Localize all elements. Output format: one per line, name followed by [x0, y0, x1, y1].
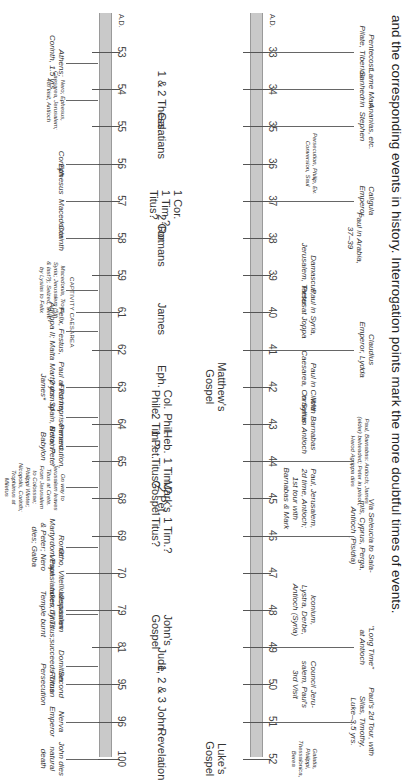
book-label: James [156, 303, 168, 335]
event-label: Corinth [57, 225, 66, 251]
year-label: 59 [116, 270, 127, 281]
connector-line [76, 312, 98, 313]
year-label: 81 [116, 642, 127, 653]
connector-line [66, 331, 98, 332]
year-label: 50 [267, 679, 278, 690]
event-label: With Barnabas in Syrian Antioch [300, 394, 318, 454]
header-caption: and the corresponding events in history.… [389, 15, 404, 765]
year-label: 56 [116, 158, 127, 169]
event-label: Persecution, Philip, Ev. Conversion, Sau… [304, 133, 318, 194]
year-label: 39 [267, 270, 278, 281]
year-label: 57 [116, 195, 127, 206]
year-label: 65 [116, 456, 127, 467]
year-label: 43 [267, 418, 278, 429]
book-label: Heb. 1 Pet. [150, 430, 174, 459]
event-label: Nero; Ephesus, Caesarea, Jerusalem; 4th … [45, 71, 66, 130]
event-label: Second Roman Persecution [39, 663, 66, 705]
connector-line [66, 63, 98, 64]
connector-line [66, 547, 98, 548]
year-label: 53 [116, 46, 127, 57]
event-label: Felix, Festus, Agrippa II; Malta [48, 302, 66, 360]
book-label: Revelation [156, 728, 168, 780]
event-label: Galatia, Philippi, Thessalonica, Berea [290, 740, 318, 777]
book-label: Matthew's Gospel [204, 362, 228, 411]
era-label-lower: A.D. [118, 14, 125, 28]
book-label: Eph. [156, 365, 168, 388]
year-label: 95 [116, 679, 127, 690]
event-label: John dies natural death [39, 742, 66, 776]
event-label: Nerva Emperor [48, 706, 66, 737]
event-label: Claudius Emperor, Lydda [358, 321, 376, 377]
book-label: John's Gospel [150, 614, 174, 649]
connector-line [66, 164, 98, 165]
event-label: "Long Time" at Antioch [358, 625, 376, 668]
connector-line [66, 487, 98, 488]
connector-line [66, 614, 98, 615]
year-label: 70 [116, 567, 127, 578]
timeline-bar-lower [99, 13, 112, 757]
connector-line [270, 89, 354, 90]
event-label: Ananias, etc. Stephen [358, 103, 376, 149]
year-label: 47 [267, 567, 278, 578]
year-label: 55 [116, 121, 127, 132]
event-label: Council Jeru- salem, Paul's 3rd Visit [291, 661, 318, 708]
connector-line [66, 446, 98, 447]
connector-line [270, 722, 354, 723]
year-label: 63 [116, 381, 127, 392]
connector-line [270, 461, 354, 462]
year-label: 69 [116, 530, 127, 541]
year-label: 36 [267, 158, 278, 169]
book-label: 1 Tim.? Titus? [150, 517, 174, 553]
timeline-bar-upper [250, 13, 263, 757]
year-label: 79 [116, 604, 127, 615]
connector-line [270, 201, 354, 202]
connector-line [66, 238, 98, 239]
connector-line [66, 610, 98, 611]
connector-line [66, 666, 98, 667]
year-label: 38 [267, 232, 278, 243]
year-label: 64 [116, 418, 127, 429]
event-label: Jerusalem taken by Titus; Temple burnt [39, 588, 66, 640]
book-label: Galatians [156, 112, 168, 158]
event-label: Paul in Arabia, 37–39 [346, 212, 364, 264]
year-label: 45 [267, 493, 278, 504]
connector-line [270, 647, 354, 648]
connector-line [66, 417, 98, 418]
connector-line [270, 536, 354, 537]
connector-line [66, 573, 98, 574]
year-label: 100 [116, 750, 127, 767]
book-label: 1, 2 & 3 John [156, 665, 168, 730]
year-label: 42 [267, 381, 278, 392]
connector-line [66, 201, 98, 202]
event-label: Paul, Jerusalem, 2d time, Antioch; 1st t… [282, 467, 318, 529]
year-label: 54 [116, 84, 127, 95]
connector-line [66, 759, 98, 760]
connector-line [66, 100, 98, 101]
event-label: Persecution, Nero; Peter Babylon [39, 424, 66, 468]
year-label: 48 [267, 604, 278, 615]
year-label: 96 [116, 716, 127, 727]
year-label: 40 [267, 307, 278, 318]
connector-line [270, 126, 354, 127]
book-label: Romans [156, 226, 168, 267]
book-label: 2 Pet. [156, 486, 168, 515]
era-label-upper: A.D. [269, 14, 276, 28]
connector-line [66, 387, 98, 388]
year-label: 58 [116, 232, 127, 243]
book-label: Luke's Gospel [204, 741, 228, 776]
event-label: CAPTIVITY CAESAREA [67, 277, 76, 348]
year-label: 68 [116, 493, 127, 504]
year-label: 62 [116, 344, 127, 355]
connector-line [66, 722, 98, 723]
event-label: Iconium, Lystra, Derbe, Antioch (Syria) [291, 584, 318, 636]
event-label: Paul in Syria, Peter at Joppa [300, 286, 318, 338]
year-label: 61 [116, 307, 127, 318]
connector-line [270, 52, 354, 53]
connector-line [66, 684, 98, 685]
event-label: On way to Jerusalem leaves Titus at Cret… [3, 463, 66, 512]
year-label: 52 [267, 753, 278, 764]
